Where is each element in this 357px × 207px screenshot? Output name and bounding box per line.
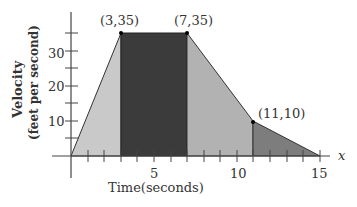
point-11-10: [251, 120, 255, 124]
y-tick-label-20: 20: [48, 79, 65, 94]
x-tick-label-10: 10: [230, 166, 247, 181]
x-tick-label-15: 15: [311, 166, 328, 181]
x-tick-label-5: 5: [150, 166, 158, 181]
velocity-time-chart: (3,35) (7,35) (11,10) 30 20 10 5 10 15 x…: [0, 0, 357, 207]
point-7-35: [185, 31, 189, 35]
x-axis-title: Time(seconds): [108, 180, 204, 195]
point-label-11-10: (11,10): [258, 106, 305, 121]
x-axis-symbol: x: [338, 148, 346, 163]
point-label-7-35: (7,35): [174, 13, 213, 28]
y-tick-label-30: 30: [48, 46, 65, 61]
region-7-11: [187, 33, 253, 156]
y-tick-label-10: 10: [48, 114, 65, 129]
point-label-3-35: (3,35): [100, 13, 139, 28]
point-3-35: [119, 31, 123, 35]
y-axis-title: Velocity: [10, 60, 25, 119]
y-axis-subtitle: (feet per second): [27, 25, 41, 140]
region-0-3: [71, 33, 121, 156]
region-3-7: [121, 33, 187, 156]
